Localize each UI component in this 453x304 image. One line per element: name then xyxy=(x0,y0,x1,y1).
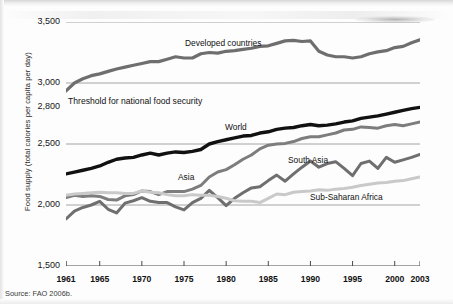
x-tick-label: 1975 xyxy=(164,274,204,284)
x-tick-label: 1970 xyxy=(122,274,162,284)
chart-figure: Food supply (total calories per capita p… xyxy=(0,0,453,304)
series-label-world: World xyxy=(225,122,247,132)
scan-artifact-top xyxy=(0,0,453,6)
x-tick-label: 2003 xyxy=(400,274,440,284)
y-tick-label: 2,800 xyxy=(18,101,60,111)
scan-artifact-smudge xyxy=(0,11,453,19)
series-line-south-asia xyxy=(66,154,420,219)
threshold-annotation: Threshold for national food security xyxy=(68,96,202,106)
x-tick-label: 1965 xyxy=(80,274,120,284)
chart-canvas xyxy=(66,22,420,266)
series-label-developed-countries: Developed countries xyxy=(185,38,261,48)
x-tick-label: 1985 xyxy=(248,274,288,284)
series-label-sub-saharan-africa: Sub-Saharan Africa xyxy=(310,192,383,202)
series-line-world xyxy=(66,107,420,173)
source-note: Source: FAO 2006b. xyxy=(5,289,72,298)
plot-area xyxy=(66,22,420,266)
y-tick-label: 3,000 xyxy=(18,77,60,87)
x-tick-label: 1990 xyxy=(290,274,330,284)
scan-artifact-bottom xyxy=(0,299,453,304)
series-label-asia: Asia xyxy=(178,172,194,182)
x-tick-label: 1995 xyxy=(333,274,373,284)
y-tick-label: 1,500 xyxy=(18,260,60,270)
y-tick-label: 2,000 xyxy=(18,199,60,209)
series-label-south-asia: South Asia xyxy=(288,155,328,165)
x-tick-label: 1980 xyxy=(206,274,246,284)
scan-artifact-left xyxy=(0,0,4,304)
y-tick-label: 3,500 xyxy=(18,16,60,26)
y-tick-label: 2,500 xyxy=(18,138,60,148)
